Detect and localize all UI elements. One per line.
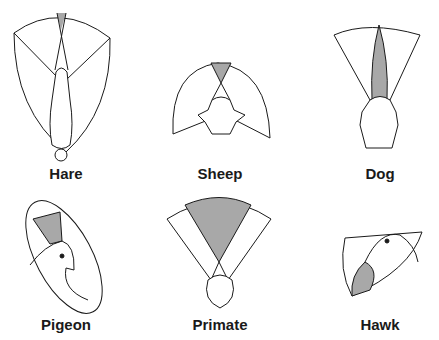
label-hare: Hare bbox=[16, 165, 116, 182]
pigeon-visual-field bbox=[10, 189, 118, 325]
primate-head-icon bbox=[207, 275, 234, 308]
primate-visual-field bbox=[167, 198, 271, 309]
sheep-visual-field bbox=[173, 63, 270, 138]
hare-visual-field bbox=[14, 13, 110, 161]
label-primate: Primate bbox=[170, 316, 270, 333]
label-dog: Dog bbox=[330, 165, 430, 182]
dog-head-icon bbox=[360, 97, 398, 149]
hawk-visual-field bbox=[343, 232, 422, 296]
label-pigeon: Pigeon bbox=[16, 316, 116, 333]
label-hawk: Hawk bbox=[330, 316, 430, 333]
label-sheep: Sheep bbox=[170, 165, 270, 182]
dog-visual-field bbox=[334, 25, 420, 148]
